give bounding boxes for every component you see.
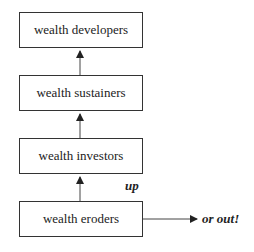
node-wealth-sustainers: wealth sustainers — [19, 75, 143, 111]
node-label: wealth sustainers — [36, 85, 125, 101]
node-wealth-developers: wealth developers — [19, 12, 143, 48]
node-wealth-investors: wealth investors — [19, 138, 143, 174]
node-wealth-eroders: wealth eroders — [19, 201, 143, 237]
annotation-or-out: or out! — [202, 211, 239, 227]
node-label: wealth developers — [34, 22, 128, 38]
node-label: wealth investors — [39, 148, 124, 164]
node-label: wealth eroders — [43, 211, 119, 227]
annotation-up: up — [125, 178, 139, 194]
